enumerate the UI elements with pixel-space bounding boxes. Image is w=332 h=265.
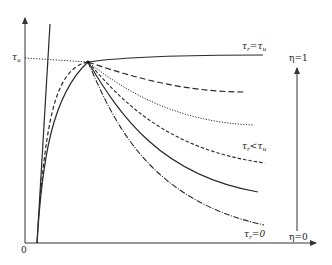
- label-tr-eq-tu: τr=τu: [242, 41, 266, 52]
- eta-top-label: η=1: [289, 53, 308, 63]
- stress-slip-diagram: 0 τu τr=τu τr<τu: [0, 0, 332, 265]
- curve-dotted: [88, 62, 253, 125]
- diagram-canvas: 0 τu τr=τu τr<τu: [0, 0, 332, 265]
- tau-u-label: τu: [12, 52, 21, 63]
- ascending-dashed-curve: [40, 62, 88, 200]
- curve-solid-lower: [88, 62, 258, 192]
- label-tr-lt-tu: τr<τu: [242, 141, 266, 152]
- curve-tr-eq-0: [88, 62, 264, 225]
- curve-tr-lt-tu: [88, 62, 265, 163]
- label-tr-eq-0: τr=0: [244, 229, 265, 240]
- curve-tr-eq-tu: [88, 55, 263, 62]
- tau-u-reference-line: [25, 58, 88, 62]
- peak-point: [86, 60, 89, 63]
- origin-label: 0: [21, 245, 27, 255]
- eta-bottom-label: η=0: [289, 232, 308, 242]
